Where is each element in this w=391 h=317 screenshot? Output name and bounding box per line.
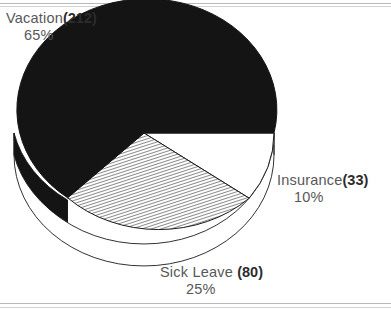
slice-label-sick-leave-count: (80) <box>237 264 263 280</box>
bottom-rule-upper <box>0 303 391 304</box>
pie-chart-figure: Vacation(212) 65% Insurance(33) 10% Sick… <box>0 0 391 317</box>
slice-label-insurance-percent: 10% <box>294 189 368 206</box>
bottom-rule-lower <box>0 307 391 308</box>
slice-label-insurance: Insurance(33) 10% <box>277 172 368 206</box>
slice-label-vacation-name: Vacation <box>6 10 63 26</box>
slice-label-insurance-name: Insurance <box>277 172 342 188</box>
slice-label-vacation-percent: 65% <box>24 27 97 44</box>
slice-label-insurance-count: (33) <box>342 172 368 188</box>
slice-label-vacation-count: (212) <box>63 10 97 26</box>
slice-label-sick-leave-name: Sick Leave <box>160 264 237 280</box>
slice-label-sick-leave: Sick Leave (80) 25% <box>160 264 263 298</box>
slice-label-sick-leave-percent: 25% <box>186 281 263 298</box>
slice-label-vacation: Vacation(212) 65% <box>6 10 97 44</box>
